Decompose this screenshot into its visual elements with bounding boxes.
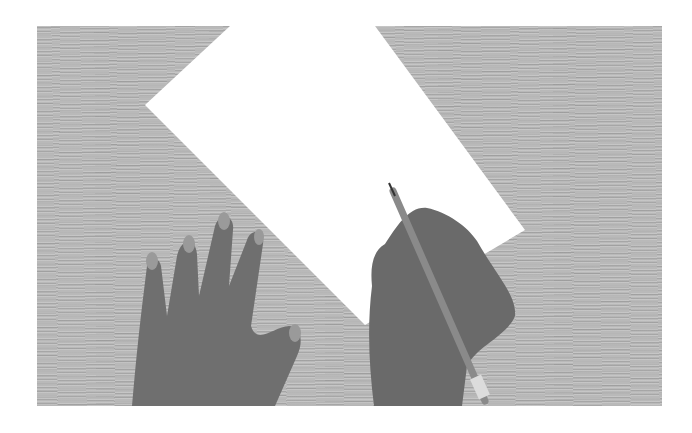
photo [37, 26, 662, 406]
left-hand [132, 212, 301, 406]
scene [37, 26, 662, 406]
